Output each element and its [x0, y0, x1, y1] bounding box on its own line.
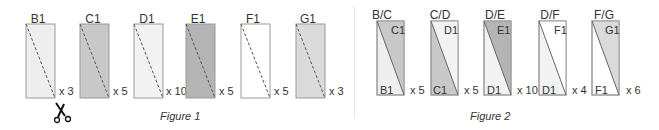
piece-label-d1: D1 — [542, 84, 556, 96]
piece-label-e1: E1 — [497, 24, 510, 36]
panel-b1 — [26, 24, 56, 99]
panel-g1 — [296, 24, 326, 99]
piece-label-d1: D1 — [487, 84, 501, 96]
piece-label-c1: C1 — [391, 24, 405, 36]
panel-c1 — [80, 24, 110, 99]
multiplier-f1: x 5 — [274, 85, 289, 97]
multiplier-d1: x 10 — [166, 85, 187, 97]
panel-label-cd: C/D — [420, 8, 460, 22]
figure-1-caption: Figure 1 — [160, 110, 200, 122]
multiplier-c1: x 5 — [113, 85, 128, 97]
multiplier-b1: x 3 — [59, 85, 74, 97]
piece-label-f1: F1 — [595, 84, 608, 96]
multiplier-g1: x 3 — [329, 85, 344, 97]
panel-f1 — [241, 24, 271, 99]
panel-label-bc: B/C — [362, 8, 402, 22]
panel-label-fg: F/G — [584, 8, 624, 22]
panel-label-de: D/E — [475, 8, 515, 22]
multiplier-de: x 10 — [517, 84, 538, 96]
panel-e1 — [186, 24, 216, 99]
piece-label-c1: C1 — [433, 84, 447, 96]
figure-divider — [354, 6, 355, 118]
piece-label-d1: D1 — [444, 24, 458, 36]
piece-label-b1: B1 — [380, 84, 393, 96]
piece-label-f1: F1 — [554, 24, 567, 36]
piece-label-g1: G1 — [605, 24, 620, 36]
panel-d1 — [134, 24, 164, 99]
scissors-icon — [52, 102, 74, 124]
multiplier-cd: x 5 — [464, 84, 479, 96]
figure-2-caption: Figure 2 — [470, 110, 510, 122]
multiplier-bc: x 5 — [410, 84, 425, 96]
multiplier-df: x 4 — [572, 84, 587, 96]
multiplier-fg: x 6 — [626, 84, 641, 96]
panel-label-df: D/F — [530, 8, 570, 22]
multiplier-e1: x 5 — [219, 85, 234, 97]
